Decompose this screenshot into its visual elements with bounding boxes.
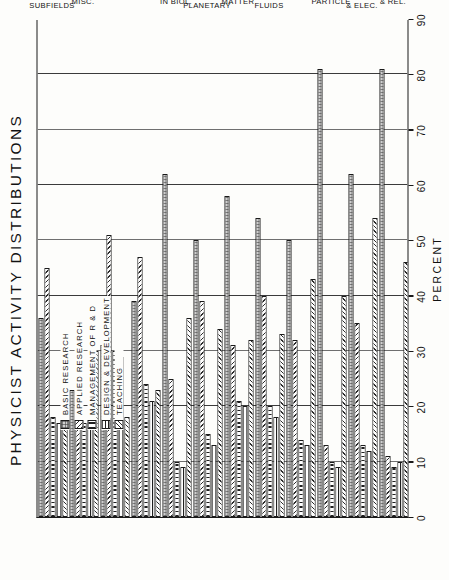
category-label: EARTH &PLANETARY xyxy=(190,0,224,13)
bar-group xyxy=(130,20,161,517)
bar xyxy=(391,467,396,517)
legend-label: TEACHING xyxy=(114,367,123,415)
bar xyxy=(335,467,340,517)
category-label: PLASMAS& FLUIDS xyxy=(252,0,286,13)
bar xyxy=(224,196,229,517)
bar-fill xyxy=(305,446,308,516)
bar-fill xyxy=(249,341,252,516)
bar-group xyxy=(37,20,68,517)
bar-fill xyxy=(293,341,296,516)
category-label: ELEMENT.PARTICLE xyxy=(314,0,348,13)
bar-fill xyxy=(156,391,159,516)
bar xyxy=(304,445,309,517)
bar xyxy=(310,279,315,517)
bar-fill xyxy=(200,302,203,516)
category-label: ACOUSTICS xyxy=(97,0,131,13)
bar-fill xyxy=(355,324,358,516)
bar xyxy=(50,417,55,517)
axis-tick-label: 60 xyxy=(415,180,426,192)
bar-fill xyxy=(342,297,345,516)
bar-group xyxy=(68,20,99,517)
bar xyxy=(230,345,235,517)
bar xyxy=(81,423,86,517)
bar-fill xyxy=(318,70,321,516)
bar-fill xyxy=(398,463,401,516)
axis-tick-label: 20 xyxy=(415,401,426,413)
bar xyxy=(44,268,49,517)
bar-fill xyxy=(392,468,395,516)
bar xyxy=(186,318,191,517)
bar xyxy=(242,406,247,517)
axis-tick xyxy=(408,74,413,75)
bar-group xyxy=(161,20,192,517)
bar xyxy=(174,462,179,517)
bar xyxy=(131,301,136,517)
axis-tick xyxy=(408,185,413,186)
bar xyxy=(193,240,198,517)
bar xyxy=(205,434,210,517)
chart-title: PHYSICIST ACTIVITY DISTRIBUTIONS xyxy=(6,0,24,580)
axis-tick-label: 70 xyxy=(415,125,426,137)
bar-fill xyxy=(373,219,376,516)
percent-axis-title: PERCENT xyxy=(430,20,442,518)
bar-fill xyxy=(169,380,172,516)
bar-group xyxy=(285,20,316,517)
bar xyxy=(267,406,272,517)
bar xyxy=(279,334,284,517)
axis-tick xyxy=(408,351,413,352)
legend-item: BASIC RESEARCH xyxy=(60,296,69,430)
bar-fill xyxy=(125,418,128,516)
bar-fill xyxy=(349,175,352,516)
axis-tick xyxy=(408,461,413,462)
bar-fill xyxy=(361,446,364,516)
bar-fill xyxy=(181,468,184,516)
bar-group xyxy=(378,20,407,517)
axis-tick xyxy=(408,517,413,518)
bar-group xyxy=(99,20,130,517)
bar-fill xyxy=(299,441,302,516)
axis-tick-label: 10 xyxy=(415,457,426,469)
bar xyxy=(236,401,241,517)
legend-swatch-icon xyxy=(101,420,110,429)
axis-tick xyxy=(408,240,413,241)
bar-group xyxy=(192,20,223,517)
legend-item: MANAGEMENT OF R & D xyxy=(87,296,96,430)
legend-label: APPLIED RESEARCH xyxy=(74,321,83,415)
category-label: PHYSICSIN BIOL. xyxy=(159,0,193,13)
bar-group xyxy=(254,20,285,517)
bar-fill xyxy=(225,197,228,516)
bar xyxy=(149,401,154,517)
bar xyxy=(211,445,216,517)
bar-group xyxy=(223,20,254,517)
bar-fill xyxy=(287,241,290,516)
bar-fill xyxy=(150,402,153,516)
bar xyxy=(292,340,297,517)
bar-fill xyxy=(82,424,85,516)
bar xyxy=(372,218,377,517)
bar xyxy=(385,456,390,517)
category-label: ASTROPHYS.& REL. xyxy=(376,0,410,13)
bar xyxy=(348,174,353,517)
bar-fill xyxy=(367,452,370,516)
axis-tick-label: 90 xyxy=(415,14,426,26)
figure-stage: PHYSICIST ACTIVITY DISTRIBUTIONS ASTROPH… xyxy=(0,0,449,580)
bar xyxy=(56,423,61,517)
axis-tick-label: 40 xyxy=(415,291,426,303)
bar xyxy=(143,384,148,517)
axis-tick xyxy=(408,406,413,407)
bar-fill xyxy=(175,463,178,516)
bar xyxy=(298,440,303,517)
bar-fill xyxy=(274,418,277,516)
bar xyxy=(354,323,359,517)
axis-tick-label: 0 xyxy=(415,515,426,521)
bar xyxy=(286,240,291,517)
bar-fill xyxy=(280,335,283,516)
bar xyxy=(38,318,43,517)
bar-fill xyxy=(380,70,383,516)
plot-area xyxy=(36,20,408,518)
legend-swatch-icon xyxy=(60,420,69,429)
legend-label: BASIC RESEARCH xyxy=(60,333,69,416)
bar-fill xyxy=(243,407,246,516)
category-label: ALLPHYSICSSUBFIELDS xyxy=(35,0,69,13)
legend-swatch-icon xyxy=(114,420,123,429)
